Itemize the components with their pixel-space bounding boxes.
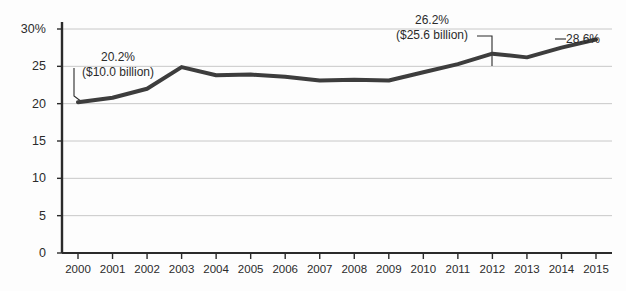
data-series-line (78, 39, 596, 102)
y-tick-label: 20 (0, 98, 46, 111)
annotation-right-percent: 28.6% (566, 32, 600, 46)
annotation-left-amount: ($10.0 billion) (82, 65, 154, 80)
line-chart: 051015202530% 20002001200220032004200520… (0, 0, 626, 291)
annotation-middle-amount: ($25.6 billion) (396, 28, 468, 43)
annotation-left: 20.2% ($10.0 billion) (82, 50, 154, 80)
annotation-left-percent: 20.2% (82, 50, 154, 65)
annotation-middle: 26.2% ($25.6 billion) (396, 13, 468, 43)
y-tick-label: 25 (0, 60, 46, 73)
y-tick-label: 10 (0, 172, 46, 185)
chart-plot-area (0, 0, 626, 291)
y-tick-label: 5 (0, 210, 46, 223)
y-tick-label: 30% (0, 23, 46, 36)
leader-line-middle (477, 36, 492, 66)
y-tick-label: 15 (0, 135, 46, 148)
x-tick-label: 2015 (576, 264, 616, 276)
leader-line-left (74, 68, 82, 102)
annotation-middle-percent: 26.2% (396, 13, 468, 28)
y-tick-label: 0 (0, 247, 46, 260)
annotation-right: 28.6% (566, 32, 600, 47)
